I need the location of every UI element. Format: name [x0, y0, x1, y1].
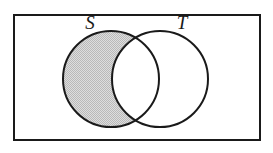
set-t-label: T — [177, 12, 189, 33]
set-s-label: S — [85, 12, 95, 33]
venn-diagram-canvas: S T — [0, 0, 273, 153]
s-minus-t-region — [0, 0, 273, 153]
venn-diagram-figure: S T — [0, 0, 273, 153]
